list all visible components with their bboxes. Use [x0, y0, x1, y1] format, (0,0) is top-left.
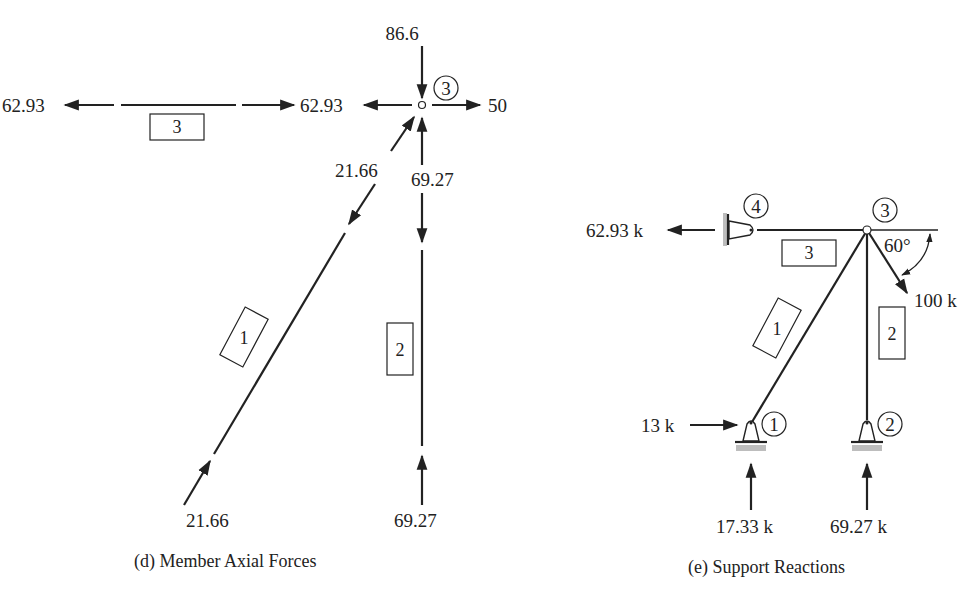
- member-1-bottom-force: 21.66: [186, 510, 229, 531]
- member-3-left-force: 62.93: [2, 95, 45, 116]
- joint-2-label: 2: [885, 414, 895, 435]
- reaction-j1-vertical: 17.33 k: [716, 516, 774, 537]
- member-3-label: 3: [173, 117, 182, 137]
- member-1-top-arrow-joint: [391, 117, 414, 151]
- joint-1-label: 1: [769, 414, 779, 435]
- reaction-j1-horizontal: 13 k: [641, 415, 675, 436]
- joint-left-force: 62.93: [300, 95, 343, 116]
- joint-load-right: 50: [488, 95, 507, 116]
- member-1-label: 1: [240, 328, 249, 348]
- joint-3-label: 3: [441, 78, 451, 99]
- joint-3-node: [419, 102, 426, 109]
- support-reactions-diagram: 3 100 k 60° 4 62.93 k 3 1 2: [586, 194, 957, 578]
- joint-3-free-body: 86.6 3 50 62.93: [300, 23, 507, 165]
- member-2-label-e: 2: [888, 324, 897, 344]
- joint-3-label-e: 3: [880, 200, 890, 221]
- applied-load-value: 100 k: [914, 290, 957, 311]
- member-1-label-e: 1: [773, 319, 782, 339]
- member-axial-forces-diagram: 86.6 3 50 62.93 62.93 3 21.66: [2, 23, 507, 572]
- joint-load-top: 86.6: [385, 23, 418, 44]
- angle-label: 60°: [884, 235, 911, 256]
- member-2: 69.27 2 69.27: [387, 169, 454, 531]
- member-1: 21.66 1 21.66: [184, 160, 378, 531]
- member-2-top-force: 69.27: [411, 169, 454, 190]
- member-1-bottom-arrow: [184, 461, 210, 505]
- reaction-j4-horizontal: 62.93 k: [586, 220, 644, 241]
- caption-d: (d) Member Axial Forces: [134, 551, 316, 572]
- member-1-top-arrow: [349, 184, 375, 224]
- truss-diagrams: 86.6 3 50 62.93 62.93 3 21.66: [0, 0, 966, 601]
- reaction-j2-vertical: 69.27 k: [830, 516, 888, 537]
- member-3: 62.93 3: [2, 95, 294, 140]
- caption-e: (e) Support Reactions: [688, 557, 845, 578]
- joint-4-label: 4: [751, 196, 761, 217]
- member-1-top-force: 21.66: [335, 160, 378, 181]
- member-2-bottom-force: 69.27: [394, 510, 437, 531]
- joint-4-support: [723, 213, 753, 246]
- member-2-label: 2: [396, 340, 405, 360]
- member-3-label-e: 3: [805, 243, 814, 263]
